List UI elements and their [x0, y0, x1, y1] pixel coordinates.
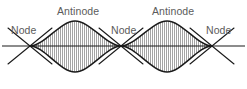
label-node-middle: Node [111, 24, 137, 36]
label-antinode-first: Antinode [57, 5, 99, 17]
label-node-left: Node [11, 24, 37, 36]
label-node-right: Node [206, 24, 232, 36]
standing-wave-figure: Node Antinode Node Antinode Node [0, 0, 247, 89]
standing-wave-graphic [0, 0, 247, 89]
label-antinode-second: Antinode [152, 5, 194, 17]
